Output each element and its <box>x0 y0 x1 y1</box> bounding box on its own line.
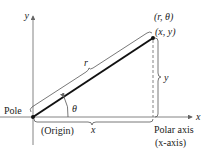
height-label: y <box>163 72 169 83</box>
polar-point-label: (r, θ) <box>154 11 174 23</box>
polar-coordinates-diagram: y x (r, θ) (x, y) r y θ Pole (Origin) x … <box>0 0 203 157</box>
x-axis-label: x <box>195 111 201 122</box>
polar-axis-label: Polar axis <box>154 124 194 135</box>
polar-axis-sublabel: (x-axis) <box>155 137 186 149</box>
r-brace <box>30 32 152 112</box>
y-brace <box>155 38 161 117</box>
diagram-canvas: y x (r, θ) (x, y) r y θ Pole (Origin) x … <box>0 0 203 157</box>
radius-line <box>33 38 153 117</box>
angle-arc <box>64 97 68 117</box>
y-axis-label: y <box>24 10 30 21</box>
base-label: x <box>90 124 96 135</box>
origin-label: (Origin) <box>41 125 74 137</box>
angle-label: θ <box>72 103 77 114</box>
radius-label: r <box>84 57 88 68</box>
pole-label: Pole <box>4 105 22 116</box>
origin-point <box>31 115 35 119</box>
rect-point-label: (x, y) <box>155 26 176 38</box>
